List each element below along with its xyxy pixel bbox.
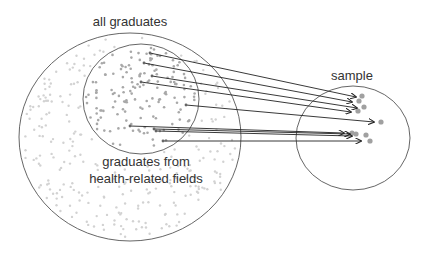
sample-dots [349,93,383,143]
subpopulation-label-line2: health-related fields [89,171,203,186]
population-label: all graduates [93,14,168,29]
sampling-arrow [150,53,356,97]
sample-label: sample [331,68,373,83]
subpopulation-circle [83,44,199,154]
population-dots [24,37,236,238]
population-circle [19,33,241,241]
sample-point [361,104,366,109]
sampling-diagram: all graduates graduates from health-rela… [0,0,422,257]
sample-point [356,98,361,103]
sample-point [363,132,368,137]
sampling-arrows [129,52,374,143]
sampling-arrow [186,105,374,122]
sampling-arrow [141,82,351,112]
sample-point [355,108,360,113]
sample-point [378,119,383,124]
sample-point [353,131,358,136]
sample-point [359,93,364,98]
sample-point [367,138,372,143]
subpopulation-label-line1: graduates from [102,154,189,169]
